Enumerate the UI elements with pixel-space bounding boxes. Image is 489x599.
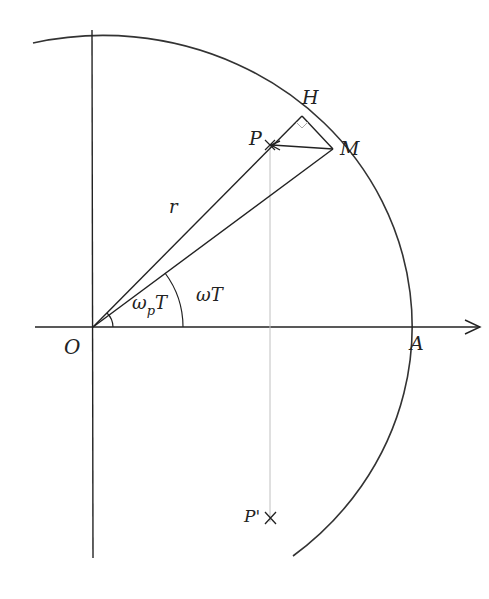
label-r: r bbox=[169, 196, 179, 217]
segment-h-m bbox=[302, 116, 333, 149]
diagram-canvas: O A H P M r P' ωpT ωT bbox=[0, 0, 489, 599]
label-angle-p: ωpT bbox=[132, 292, 169, 318]
label-p-prime: P' bbox=[243, 506, 260, 526]
segment-m-p bbox=[272, 145, 333, 149]
label-a: A bbox=[408, 332, 424, 354]
label-m: M bbox=[339, 137, 360, 159]
label-origin: O bbox=[64, 335, 80, 359]
angle-arc-m bbox=[165, 273, 183, 327]
right-angle-marker bbox=[296, 122, 308, 128]
label-angle-m: ωT bbox=[196, 284, 225, 305]
label-p: P bbox=[248, 127, 263, 149]
label-h: H bbox=[301, 86, 319, 108]
y-axis bbox=[92, 30, 93, 558]
